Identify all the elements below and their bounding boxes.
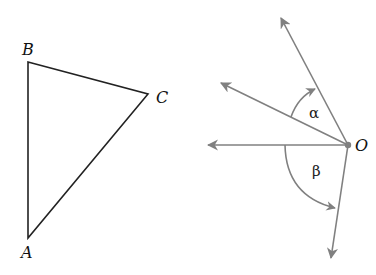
vertex-label-c: C [156,88,168,107]
vertex-label-a: A [19,243,33,262]
ray-up-arrow [281,18,348,145]
ray-upper-left-arrow [221,83,348,145]
vertex-label-b: B [21,40,34,59]
beta-arc-arrow [285,145,335,208]
origin-point [345,142,351,148]
ray-down-arrow [331,145,348,258]
origin-label: O [355,136,368,155]
beta-label: β [312,162,321,180]
alpha-label: α [309,104,319,122]
geometry-figure: B C A O α β [0,0,376,275]
triangle-abc [28,62,148,238]
